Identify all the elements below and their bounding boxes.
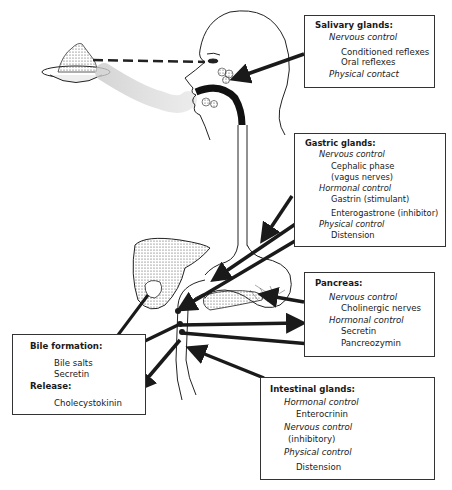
pancreas-title: Pancreas:	[315, 278, 434, 290]
intestinal-hormonal-item: Enterocrinin	[270, 408, 434, 421]
bile-box: Bile formation: Bile salts Secretin Rele…	[12, 334, 146, 415]
pancreas-hormonal-item: Pancreozymin	[315, 338, 434, 350]
intestinal-nervous-label: Nervous control	[270, 421, 434, 434]
gastric-nervous-item: Cephalic phase	[305, 161, 445, 172]
intestinal-physical-item: Distension	[270, 461, 434, 474]
intestinal-physical-label: Physical control	[270, 446, 434, 459]
gastric-hormonal-label: Hormonal control	[305, 183, 445, 194]
gastric-physical-label: Physical control	[305, 219, 445, 230]
gastric-glands-box: Gastric glands: Nervous control Cephalic…	[294, 133, 446, 247]
pancreas-nervous-label: Nervous control	[315, 292, 434, 304]
intestinal-glands-box: Intestinal glands: Hormonal control Ente…	[260, 377, 435, 480]
bile-item: Bile salts	[30, 358, 145, 370]
bile-release-title: Release:	[30, 381, 145, 393]
gastric-nervous-item: (vagus nerves)	[305, 172, 445, 183]
head-profile	[185, 11, 289, 140]
gastric-hormonal-item: Gastrin (stimulant)	[305, 194, 445, 205]
salivary-glands-box: Salivary glands: Nervous control Conditi…	[304, 15, 435, 88]
intestinal-hormonal-label: Hormonal control	[270, 396, 434, 409]
gastric-title: Gastric glands:	[305, 138, 445, 149]
pancreas-box: Pancreas: Nervous control Cholinergic ne…	[304, 272, 435, 357]
salivary-nervous-label: Nervous control	[315, 32, 434, 44]
salivary-nervous-item: Oral reflexes	[315, 57, 434, 67]
pancreas-hormonal-item: Secretin	[315, 326, 434, 338]
salivary-title: Salivary glands:	[315, 20, 434, 32]
bile-formation-title: Bile formation:	[30, 341, 145, 353]
intestinal-title: Intestinal glands:	[270, 383, 434, 396]
salivary-physical-label: Physical contact	[315, 69, 434, 81]
pancreas	[203, 291, 262, 310]
gastric-hormonal-item: Enterogastrone (inhibitor)	[305, 208, 445, 219]
bile-item: Secretin	[30, 369, 145, 381]
bile-release-item: Cholecystokinin	[30, 398, 145, 410]
pancreas-hormonal-label: Hormonal control	[315, 315, 434, 327]
gastric-physical-item: Distension	[305, 230, 445, 241]
intestinal-nervous-item: (inhibitory)	[270, 433, 434, 446]
gastric-nervous-label: Nervous control	[305, 149, 445, 160]
pancreas-nervous-item: Cholinergic nerves	[315, 303, 434, 315]
salivary-nervous-item: Conditioned reflexes	[315, 47, 434, 57]
